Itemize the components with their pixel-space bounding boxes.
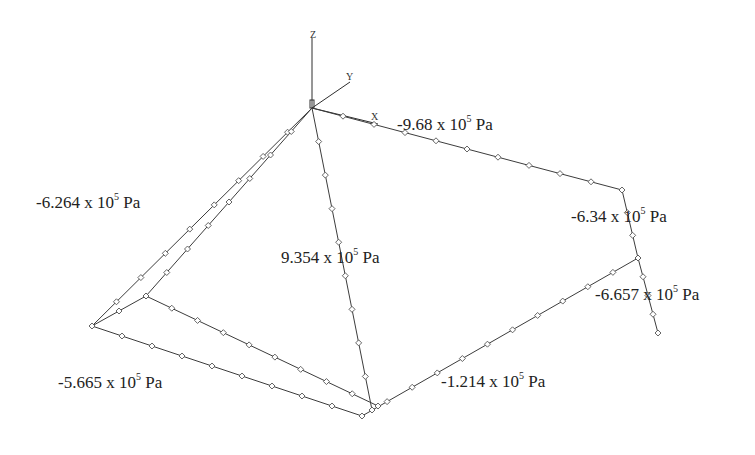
node-marker-icon [557,171,563,177]
node-marker-icon [384,399,390,405]
node-marker-icon [655,330,661,336]
node-marker-icon [342,273,348,279]
node-marker-icon [630,232,636,238]
node-marker-icon [560,298,566,304]
node-marker-icon [272,354,278,360]
node-marker-icon [336,239,342,245]
node-marker-icon [239,373,245,379]
node-marker-icon [526,162,532,168]
frame-member [92,108,312,326]
node-marker-icon [169,305,175,311]
node-marker-icon [298,366,304,372]
node-marker-icon [195,317,201,323]
y-axis-label: Y [346,72,353,82]
node-marker-icon [433,138,439,144]
node-marker-icon [116,308,122,314]
frame-member [146,296,378,406]
node-marker-icon [640,274,646,280]
node-marker-icon [322,172,328,178]
node-marker-icon [369,407,375,413]
node-marker-icon [246,342,252,348]
pressure-label-bottom-left: -5.665 x 105 Pa [58,374,162,391]
pressure-label-right-lower: -6.657 x 105 Pa [595,286,699,303]
z-axis-label: Z [310,30,316,40]
node-marker-icon [585,284,591,290]
node-marker-icon [349,391,355,397]
node-marker-icon [362,373,368,379]
frame-diagram: Z Y X -9.68 x 105 Pa -6.264 x 105 Pa -6.… [0,0,755,455]
coordinate-axes [310,38,378,124]
node-marker-icon [299,393,305,399]
node-marker-icon [220,330,226,336]
node-marker-icon [459,356,465,362]
node-marker-icon [329,206,335,212]
node-marker-icon [650,311,656,317]
frame-member [362,258,638,416]
pressure-label-top-edge: -9.68 x 105 Pa [397,116,493,133]
node-marker-icon [464,146,470,152]
pressure-label-diagonal: 9.354 x 105 Pa [281,249,380,266]
pressure-label-left-edge: -6.264 x 105 Pa [36,194,140,211]
node-marker-icon [619,187,625,193]
node-marker-icon [359,413,365,419]
node-marker-icon [329,403,335,409]
node-marker-icon [434,370,440,376]
node-marker-icon [119,333,125,339]
x-axis-label: X [371,112,378,122]
node-marker-icon [409,384,415,390]
pressure-label-bottom-right: -1.214 x 105 Pa [441,373,545,390]
node-marker-icon [316,139,322,145]
node-marker-icon [510,327,516,333]
node-marker-icon [269,383,275,389]
node-marker-icon [149,343,155,349]
node-marker-icon [356,340,362,346]
node-marker-icon [495,154,501,160]
node-marker-icon [610,269,616,275]
node-marker-icon [535,312,541,318]
node-marker-icon [635,255,641,261]
frame-member [92,326,362,416]
pressure-label-right-upper: -6.34 x 105 Pa [571,208,667,225]
node-marker-icon [340,113,346,119]
node-marker-icon [484,341,490,347]
node-marker-icon [588,179,594,185]
node-marker-icon [349,306,355,312]
y-axis [312,82,350,108]
node-marker-icon [209,363,215,369]
node-marker-icon [179,353,185,359]
node-marker-icon [323,379,329,385]
